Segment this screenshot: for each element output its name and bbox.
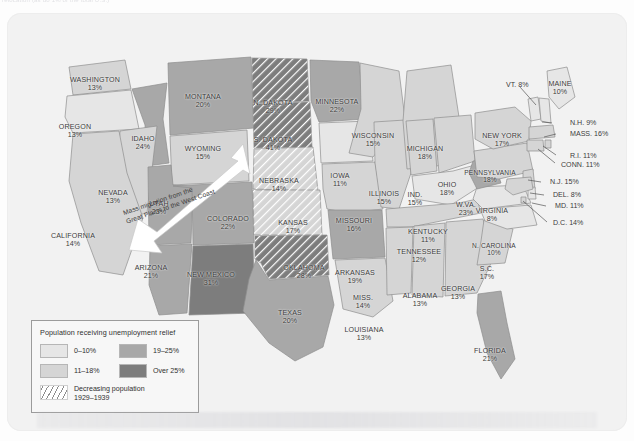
- leader-line-maryland: [532, 203, 546, 206]
- state-shape-oregon: [65, 90, 139, 133]
- state-shape-indiana: [406, 119, 437, 175]
- state-shape-massachusetts: [529, 125, 555, 139]
- state-shape-dc: [521, 197, 526, 203]
- leader-line-connecticut: [538, 149, 555, 163]
- legend-item-0-10: 0–10%: [40, 344, 111, 358]
- legend-item-11-18: 11–18%: [40, 364, 111, 378]
- state-shape-new-york: [475, 107, 531, 149]
- legend-swatch-icon-11-18: [40, 364, 68, 378]
- scan-smudge: [37, 412, 597, 428]
- map-figure-panel: WASHINGTON13%OREGON13%IDAHO24%MONTANA20%…: [7, 13, 627, 431]
- state-shape-alabama: [412, 223, 445, 297]
- legend-label-over-25: Over 25%: [153, 367, 185, 375]
- legend-hatch-label: Decreasing population 1929–1939: [74, 385, 145, 404]
- state-hatch-south-dakota: [253, 102, 312, 148]
- map-stage: WASHINGTON13%OREGON13%IDAHO24%MONTANA20%…: [7, 13, 627, 431]
- hatch-label-line-1: Decreasing population: [74, 385, 145, 393]
- state-hatch-north-dakota: [252, 58, 309, 103]
- legend-label-0-10: 0–10%: [74, 347, 96, 355]
- legend-swatch-icon-19-25: [119, 344, 147, 358]
- state-shape-minnesota: [310, 60, 365, 122]
- state-shape-missouri: [322, 162, 383, 213]
- legend-label-19-25: 19–25%: [153, 347, 179, 355]
- state-shape-louisiana: [335, 258, 393, 317]
- state-shape-arkansas: [328, 210, 385, 259]
- state-hatch-kansas: [253, 190, 322, 235]
- state-shape-maine: [547, 67, 575, 109]
- map-legend: Population receiving unemployment relief…: [31, 320, 199, 413]
- state-shape-florida: [477, 291, 515, 379]
- state-shape-connecticut: [527, 140, 544, 151]
- legend-swatch-icon-over-25: [119, 364, 147, 378]
- state-shape-washington: [69, 60, 131, 95]
- hatch-label-line-2: 1929–1939: [74, 394, 110, 402]
- legend-label-11-18: 11–18%: [74, 367, 100, 375]
- legend-item-19-25: 19–25%: [119, 344, 190, 358]
- legend-item-over-25: Over 25%: [119, 364, 190, 378]
- leader-line-vermont: [520, 87, 536, 105]
- legend-swatch-grid: 0–10%19–25%11–18%Over 25%: [40, 344, 190, 378]
- hatch-swatch-icon: [40, 385, 68, 400]
- state-shape-rhode-island: [545, 140, 551, 148]
- page-root: relocation (as do 1% of the total U.S.): [0, 0, 634, 441]
- state-shape-mississippi: [386, 227, 413, 295]
- state-shape-ohio: [434, 115, 475, 173]
- state-shape-montana: [168, 57, 254, 135]
- legend-title: Population receiving unemployment relief: [40, 328, 190, 337]
- state-shape-new-hampshire: [539, 98, 551, 123]
- state-shape-arizona: [149, 244, 192, 315]
- state-hatch-oklahoma: [255, 235, 329, 279]
- legend-swatch-icon-0-10: [40, 344, 68, 358]
- legend-hatch-entry: Decreasing population 1929–1939: [40, 385, 190, 404]
- top-caption: relocation (as do 1% of the total U.S.): [2, 0, 110, 3]
